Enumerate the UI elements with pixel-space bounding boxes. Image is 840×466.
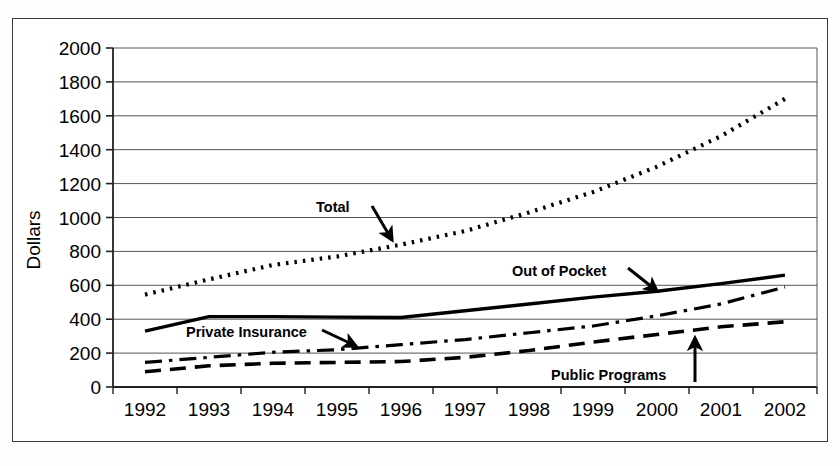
y-tick-label: 200	[69, 343, 101, 364]
x-tick-label: 1998	[508, 399, 550, 420]
annotation-label: Public Programs	[551, 367, 666, 383]
y-tick-label: 400	[69, 309, 101, 330]
x-axis-ticks	[113, 387, 817, 394]
x-tick-label: 1995	[316, 399, 358, 420]
annotation-arrow	[372, 206, 392, 240]
line-chart: 0200400600800100012001400160018002000 19…	[0, 0, 840, 466]
x-axis-tick-labels: 1992199319941995199619971998199920002001…	[124, 399, 806, 420]
series-line-total	[145, 99, 785, 295]
y-tick-label: 1400	[59, 140, 101, 161]
annotation-arrow	[628, 268, 657, 291]
annotation-label: Private Insurance	[186, 324, 307, 340]
y-tick-label: 1200	[59, 174, 101, 195]
x-tick-label: 1992	[124, 399, 166, 420]
y-tick-label: 0	[90, 377, 101, 398]
y-tick-label: 1000	[59, 208, 101, 229]
x-tick-label: 1999	[572, 399, 614, 420]
annotation-label: Total	[316, 199, 350, 215]
annotations-layer: TotalOut of PocketPrivate InsurancePubli…	[186, 199, 695, 383]
y-tick-label: 800	[69, 241, 101, 262]
x-tick-label: 1993	[188, 399, 230, 420]
x-tick-label: 1996	[380, 399, 422, 420]
x-tick-label: 2000	[636, 399, 678, 420]
y-tick-label: 1800	[59, 72, 101, 93]
y-tick-label: 1600	[59, 106, 101, 127]
chart-figure: 0200400600800100012001400160018002000 19…	[0, 0, 840, 466]
annotation-label: Out of Pocket	[512, 263, 606, 279]
y-tick-label: 2000	[59, 38, 101, 59]
x-tick-label: 1997	[444, 399, 486, 420]
y-axis-tick-labels: 0200400600800100012001400160018002000	[59, 38, 101, 398]
series-line-out-of-pocket	[145, 275, 785, 331]
x-tick-label: 1994	[252, 399, 295, 420]
x-tick-label: 2001	[700, 399, 742, 420]
x-tick-label: 2002	[764, 399, 806, 420]
y-axis-title: Dollars	[23, 210, 44, 269]
y-tick-label: 600	[69, 275, 101, 296]
gridlines	[113, 48, 817, 353]
annotation-arrow	[322, 330, 356, 346]
